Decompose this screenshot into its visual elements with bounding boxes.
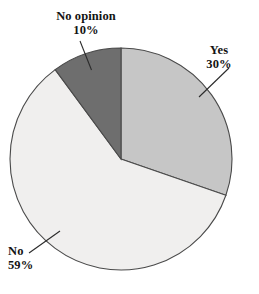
pie-label-no-opinion: No opinion 10%: [40, 10, 132, 37]
pie-label-yes-name: Yes: [196, 44, 242, 58]
pie-label-no: No 59%: [8, 245, 54, 272]
pie-label-no-opinion-value: 10%: [40, 24, 132, 38]
pie-label-no-name: No: [8, 245, 54, 259]
leader-line-yes: [199, 68, 229, 97]
pie-label-yes: Yes 30%: [196, 44, 242, 71]
pie-chart: No opinion 10% Yes 30% No 59%: [0, 0, 259, 294]
pie-label-no-value: 59%: [8, 259, 54, 273]
pie-label-yes-value: 30%: [196, 58, 242, 72]
pie-slices: [10, 48, 232, 270]
pie-label-no-opinion-name: No opinion: [40, 10, 132, 24]
